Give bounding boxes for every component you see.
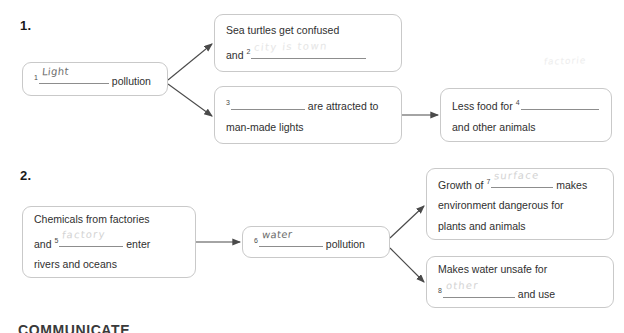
s2-eff-top-line3: plants and animals [438, 216, 602, 237]
answer-blank-2[interactable]: city is town [251, 46, 366, 59]
arrow-s2-to-top [390, 206, 424, 238]
handwriting-answer-8: other [445, 274, 480, 296]
box-section1-effect-bottom: 3 are attracted to man-made lights [214, 86, 402, 144]
box-section2-source: Chemicals from factories and 5factory en… [22, 206, 196, 278]
source-text-after: pollution [112, 74, 151, 86]
answer-blank-6[interactable]: water [259, 234, 323, 247]
result-line2: and other animals [452, 117, 600, 138]
handwriting-answer-1: Light [41, 61, 70, 83]
effect-top-line2-before: and [226, 49, 244, 61]
handwriting-answer-6: water [261, 224, 294, 246]
s2-eff-bot-line2-after: and use [518, 288, 555, 300]
answer-blank-3[interactable] [231, 97, 305, 110]
result-line1: Less food for 4 [452, 92, 600, 117]
blank-number-6: 6 [254, 237, 258, 244]
box-section1-source: 1Light pollution [22, 62, 168, 96]
s2-source-line2-after: enter [126, 237, 150, 249]
blank-number-2: 2 [246, 48, 250, 55]
handwriting-answer-7: surface [493, 165, 540, 187]
blank-number-1: 1 [34, 74, 38, 81]
section-number-1: 1. [20, 18, 31, 33]
box-section1-result: Less food for 4 and other animals [440, 88, 612, 142]
s2-eff-top-line2: environment dangerous for [438, 195, 602, 216]
s2-middle-line: 6water pollution [254, 230, 378, 255]
handwriting-answer-2: city is town [253, 35, 329, 58]
effect-top-line2: and 2city is town [226, 41, 390, 66]
arrow-s1-to-top [168, 44, 212, 80]
s2-source-line2-before: and [34, 237, 52, 249]
s2-eff-top-line1: Growth of 7surface makes [438, 171, 602, 196]
s2-source-line1: Chemicals from factories [34, 209, 184, 230]
box-section2-middle: 6water pollution [242, 226, 390, 258]
stray-handwriting-note: factorie [543, 55, 586, 67]
section-number-2: 2. [20, 168, 31, 183]
blank-number-7: 7 [486, 178, 490, 185]
box-section1-effect-top: Sea turtles get confused and 2city is to… [214, 14, 402, 72]
answer-blank-8[interactable]: other [443, 285, 515, 298]
s2-eff-top-line1-after: makes [556, 178, 587, 190]
s2-eff-bot-line2: 8other and use [438, 280, 602, 305]
blank-number-8: 8 [438, 287, 442, 294]
blank-number-4: 4 [516, 99, 520, 106]
s2-eff-top-line1-before: Growth of [438, 178, 484, 190]
s2-middle-text-after: pollution [326, 237, 365, 249]
blank-number-3: 3 [226, 99, 230, 106]
footer-heading: COMMUNICATE [18, 322, 130, 333]
effect-bottom-line1: 3 are attracted to [226, 92, 390, 117]
blank-number-5: 5 [54, 237, 58, 244]
answer-blank-1[interactable]: Light [39, 71, 109, 84]
handwriting-answer-5: factory [61, 224, 107, 246]
effect-bottom-line1-after: are attracted to [308, 100, 379, 112]
s2-source-line3: rivers and oceans [34, 254, 184, 275]
answer-blank-7[interactable]: surface [491, 175, 553, 188]
effect-bottom-line2: man-made lights [226, 117, 390, 138]
source-line: 1Light pollution [34, 67, 156, 92]
result-line1-before: Less food for [452, 100, 513, 112]
answer-blank-4[interactable] [521, 97, 599, 110]
answer-blank-5[interactable]: factory [59, 234, 123, 247]
box-section2-effect-bottom: Makes water unsafe for 8other and use [426, 256, 614, 308]
box-section2-effect-top: Growth of 7surface makes environment dan… [426, 168, 614, 240]
s2-source-line2: and 5factory enter [34, 230, 184, 255]
arrow-s2-to-bottom [390, 248, 424, 282]
arrow-s1-to-bottom [168, 84, 212, 116]
